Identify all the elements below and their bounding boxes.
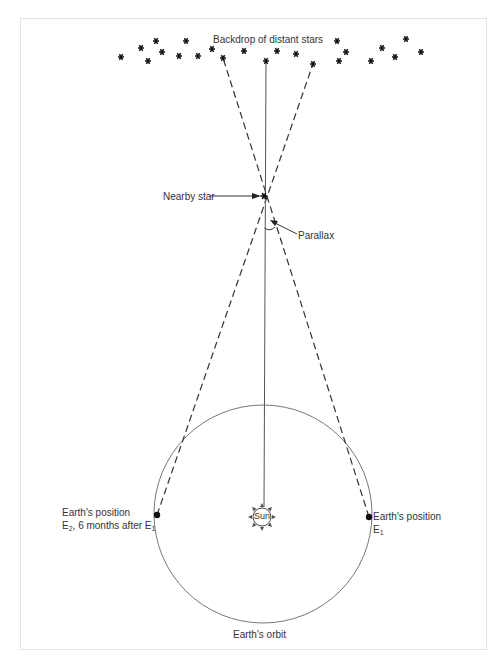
- distant-star-icon: [379, 45, 385, 51]
- distant-star-icon: [153, 38, 159, 44]
- distant-star-icon: [368, 58, 374, 64]
- distant-star-icon: [183, 38, 189, 44]
- distant-star-icon: [118, 54, 124, 60]
- distant-star-icon: [310, 61, 316, 67]
- parallax-label: Parallax: [298, 229, 334, 242]
- distant-star-icon: [195, 53, 201, 59]
- earth-e1-label: Earth's position E1: [373, 510, 441, 536]
- earth-e2-line2: E2, 6 months after E1: [62, 519, 155, 532]
- earth-e1-line1: Earth's position: [373, 510, 441, 523]
- backdrop-label: Backdrop of distant stars: [213, 33, 323, 46]
- sun-to-star-line: [264, 61, 266, 507]
- distant-star-icon: [159, 49, 165, 55]
- e2-letter: E: [62, 520, 69, 531]
- parallax-arrowhead: [270, 220, 278, 226]
- parallax-arc: [265, 227, 276, 230]
- e1-letter: E: [373, 524, 380, 535]
- distant-star-icon: [274, 48, 280, 54]
- distant-star-icon: [241, 48, 247, 54]
- distant-star-icon: [293, 51, 299, 57]
- earth-e2-label: Earth's position E2, 6 months after E1: [62, 506, 155, 532]
- distant-star-icon: [334, 38, 340, 44]
- orbit-label: Earth's orbit: [233, 628, 286, 641]
- distant-star-icon: [176, 53, 182, 59]
- nearby-star-label: Nearby star: [163, 190, 215, 203]
- sight-line-from-e2: [157, 64, 313, 515]
- e2-description: , 6 months after E: [73, 520, 152, 531]
- distant-star-icon: [343, 49, 349, 55]
- e1-subscript: 1: [380, 529, 384, 536]
- distant-star-icon: [336, 58, 342, 64]
- distant-star-icon: [418, 49, 424, 55]
- earth-e2-line1: Earth's position: [62, 506, 155, 519]
- parallax-diagram: [0, 0, 502, 664]
- distant-star-icon: [392, 54, 398, 60]
- distant-star-icon: [138, 45, 144, 51]
- earth-e1-line2: E1: [373, 523, 441, 536]
- nearby-star-arrowhead: [252, 193, 261, 199]
- distant-star-icon: [403, 36, 409, 42]
- distant-star-icon: [145, 58, 151, 64]
- sight-line-from-e1: [223, 58, 369, 517]
- sun-label: Sun: [252, 511, 272, 521]
- distant-star-icon: [209, 46, 215, 52]
- earth-e1-dot: [366, 514, 372, 520]
- e1-ref-subscript: 1: [152, 525, 156, 532]
